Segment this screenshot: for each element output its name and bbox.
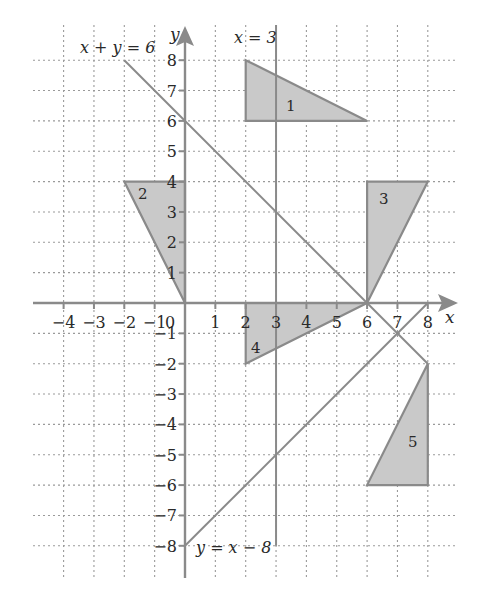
y-axis-label: y [169,24,180,44]
x-tick-label: 7 [392,313,402,332]
y-tick-label: 6 [167,112,177,131]
origin-label: 0 [165,313,175,332]
graph-line-2 [185,303,428,546]
shape-label-5: 5 [408,433,418,451]
y-tick-label: −7 [153,506,177,525]
x-tick-label: 8 [423,313,433,332]
y-tick-label: 5 [167,142,177,161]
x-tick-label: 5 [332,313,342,332]
x-tick-label: −2 [113,313,137,332]
x-tick-label: 4 [301,313,311,332]
y-tick-label: 1 [167,264,177,283]
x-tick-label: 6 [362,313,372,332]
x-tick-label: 2 [241,313,251,332]
line-label-y-x-minus-8: y = x − 8 [195,538,271,557]
y-tick-label: −5 [153,446,177,465]
shape-label-2: 2 [138,185,148,203]
y-tick-label: −2 [153,355,177,374]
coordinate-grid-figure: −4−3−2−11234567887654321−1−2−3−4−5−6−7−8… [0,0,484,616]
y-tick-label: 4 [167,173,177,192]
y-tick-label: 3 [167,203,177,222]
y-tick-label: −8 [153,537,177,556]
x-tick-label: −4 [52,313,76,332]
y-tick-label: −3 [153,385,177,404]
line-label-x-equals-3: x = 3 [234,28,277,47]
y-tick-label: 7 [167,82,177,101]
y-tick-label: 2 [167,233,177,252]
y-tick-label: −6 [153,476,177,495]
shape-label-1: 1 [286,97,296,115]
line-label-x-plus-y-6: x + y = 6 [80,38,155,57]
x-tick-label: 1 [210,313,220,332]
x-tick-label: 3 [271,313,281,332]
shape-label-4: 4 [251,339,261,357]
y-tick-label: 8 [167,51,177,70]
y-tick-label: −4 [153,415,177,434]
shape-label-3: 3 [379,190,389,208]
x-tick-label: −3 [82,313,106,332]
x-axis-label: x [445,307,455,327]
